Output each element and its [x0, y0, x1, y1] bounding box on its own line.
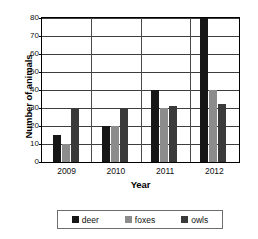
legend-label-owls: owls: [191, 215, 208, 225]
legend-swatch-foxes-icon: [125, 216, 132, 223]
plot-inner: 01020304050607080: [42, 18, 239, 162]
legend-label-foxes: foxes: [135, 215, 155, 225]
bar-foxes-2010: [111, 126, 119, 162]
y-tick-label: 50: [30, 68, 39, 76]
legend-swatch-owls-icon: [181, 216, 188, 223]
legend-item-deer: deer: [58, 215, 113, 225]
bar-owls-2009: [71, 108, 79, 162]
bar-group: [91, 18, 140, 162]
x-tick-label-2010: 2010: [91, 166, 140, 176]
bar-deer-2012: [200, 18, 208, 162]
x-tick-label-2011: 2011: [141, 166, 190, 176]
chart-legend: deer foxes owls: [57, 210, 223, 229]
y-tick-label: 40: [30, 86, 39, 94]
legend-item-owls: owls: [167, 215, 222, 225]
x-tick-label-2009: 2009: [42, 166, 91, 176]
bar-owls-2012: [218, 104, 226, 162]
bar-deer-2009: [53, 135, 61, 162]
legend-swatch-deer-icon: [72, 216, 79, 223]
y-axis-title: Number of animals: [23, 22, 34, 172]
y-tick-label: 60: [30, 50, 39, 58]
y-tick-label: 80: [30, 14, 39, 22]
bar-deer-2011: [151, 90, 159, 162]
bar-owls-2011: [169, 106, 177, 162]
bar-foxes-2012: [209, 90, 217, 162]
y-tick-label: 0: [35, 158, 39, 166]
y-tick-label: 20: [30, 122, 39, 130]
x-axis-title: Year: [41, 179, 240, 190]
plot-area: 01020304050607080: [41, 17, 240, 163]
legend-label-deer: deer: [82, 215, 99, 225]
bar-owls-2010: [120, 108, 128, 162]
bar-group: [141, 18, 190, 162]
bar-deer-2010: [102, 126, 110, 162]
y-tick-label: 70: [30, 32, 39, 40]
legend-item-foxes: foxes: [113, 215, 168, 225]
x-tick-label-2012: 2012: [190, 166, 239, 176]
y-tick-label: 10: [30, 140, 39, 148]
y-tick-label: 30: [30, 104, 39, 112]
bar-foxes-2009: [62, 144, 70, 162]
bar-foxes-2011: [160, 108, 168, 162]
bar-chart-figure: Number of animals 01020304050607080 Year…: [0, 0, 258, 239]
bar-group: [190, 18, 239, 162]
bar-group: [42, 18, 91, 162]
